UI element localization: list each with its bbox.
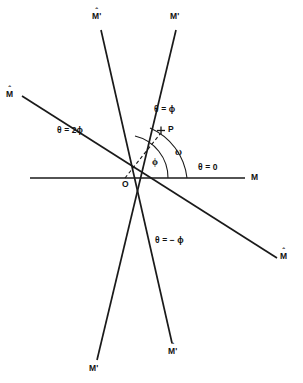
hat-accent-icon: ˆ xyxy=(171,342,174,350)
label-theta-equals-zero: θ = 0 xyxy=(198,163,218,172)
ray-m-hat-theta-two-phi xyxy=(22,96,277,258)
hat-accent-icon: ˆ xyxy=(95,7,98,15)
label-m-hat-upper-left: ˆM xyxy=(6,90,13,99)
label-theta-equals-phi: θ = ϕ xyxy=(154,105,175,114)
label-m-prime-bottom-left: M' xyxy=(89,364,98,373)
label-m-hat-prime-bottom-right: ˆM' xyxy=(168,347,177,356)
label-theta-equals-minus-phi: θ = − ϕ xyxy=(155,236,184,245)
label-m-hat-lower-right: ˆM xyxy=(280,252,287,261)
label-angle-phi: ϕ xyxy=(152,158,158,168)
hat-accent-icon: ˆ xyxy=(8,85,11,93)
diagram-canvas xyxy=(0,0,303,383)
label-theta-equals-two-phi: θ = 2ϕ xyxy=(57,126,83,135)
label-angle-omega: ω xyxy=(175,148,182,158)
label-point-p: P xyxy=(168,125,174,134)
label-m-prime-top-right: M' xyxy=(170,12,179,21)
hat-accent-icon: ˆ xyxy=(282,247,285,255)
point-p-marker xyxy=(157,127,165,135)
ray-diagram-figure: ˆM' M' ˆM θ = ϕ θ = 2ϕ P ω ϕ θ = 0 M O θ… xyxy=(0,0,303,383)
label-m-right: M xyxy=(251,173,258,182)
label-m-hat-prime-top-left: ˆM' xyxy=(92,12,101,21)
label-origin-o: O xyxy=(122,180,129,189)
